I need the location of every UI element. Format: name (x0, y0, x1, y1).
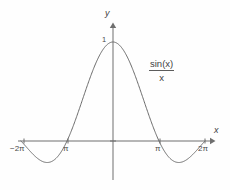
x-axis-label: x (214, 126, 219, 135)
formula-denominator: x (149, 71, 174, 83)
y-axis-arrowhead (110, 23, 116, 29)
x-tick-label-pi: π (155, 145, 161, 153)
plot-canvas (0, 0, 230, 190)
x-tick-label-neg-pi: π (63, 145, 69, 153)
formula-numerator: sin(x) (149, 58, 174, 70)
x-axis-arrowhead (210, 138, 216, 145)
x-tick-label-neg-2pi: −2π (10, 145, 25, 153)
y-axis-label: y (105, 9, 110, 18)
y-tick-label-one: 1 (102, 36, 106, 44)
sinc-function-plot: y x 1 −2π π π 2π sin(x) x (0, 0, 230, 190)
x-tick-label-2pi: 2π (198, 145, 208, 153)
function-annotation: sin(x) x (149, 58, 174, 83)
